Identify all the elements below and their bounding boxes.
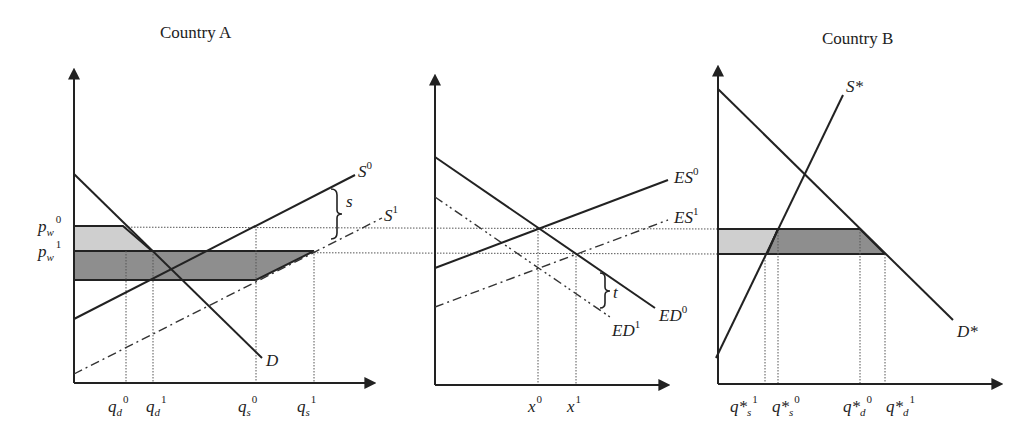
- subsidy-cost-area: [74, 251, 314, 280]
- label-ed1: ED1: [611, 318, 640, 340]
- excess-demand-ed0: [435, 157, 655, 308]
- label-qs0-star: q*s0: [772, 393, 800, 418]
- excess-demand-ed1: [435, 197, 610, 317]
- label-es1: ES1: [673, 205, 698, 227]
- label-d-star: D*: [956, 322, 978, 341]
- demand-curve-b: [718, 89, 953, 320]
- label-qd0: qd0: [108, 393, 129, 418]
- panel-country-b: Country B S* D* q*s1 q*s0 q*d0 q*d1: [716, 29, 1001, 418]
- panel-title-country-a: Country A: [160, 23, 232, 42]
- world-price-0-guide: [74, 227, 718, 229]
- label-x1: x1: [566, 393, 581, 416]
- label-qs0: qs0: [238, 393, 258, 418]
- label-qd1: qd1: [146, 393, 167, 418]
- label-s-star: S*: [846, 77, 864, 96]
- label-qd1-star: q*d1: [886, 393, 915, 418]
- supply-curve-b: [716, 95, 843, 358]
- label-pw0: pw0: [37, 213, 62, 238]
- trade-policy-diagram: Country A s S0 S1 D pw0 pw1 qd0 qd1 qs0 …: [0, 0, 1034, 439]
- panel-title-country-b: Country B: [822, 29, 893, 48]
- subsidy-brace: [331, 189, 342, 239]
- panel-country-a: Country A s S0 S1 D pw0 pw1 qd0 qd1 qs0 …: [37, 23, 398, 418]
- label-ed0: ED0: [658, 303, 688, 325]
- label-s0: S0: [358, 159, 373, 181]
- consumer-gain-area: [767, 229, 885, 254]
- tariff-brace: [600, 273, 610, 308]
- label-qs1-star: q*s1: [730, 393, 758, 418]
- label-x0: x0: [527, 393, 543, 416]
- label-s1: S1: [384, 203, 398, 225]
- label-pw1: pw1: [37, 238, 61, 263]
- subsidy-label: s: [346, 192, 353, 211]
- excess-supply-es0: [435, 180, 668, 268]
- label-qs1: qs1: [297, 393, 316, 418]
- label-es0: ES0: [673, 165, 699, 187]
- label-d: D: [265, 351, 279, 370]
- tariff-label: t: [613, 283, 619, 302]
- panel-world-market: t ES0 ES1 ED0 ED1 x0 x1: [435, 76, 699, 416]
- label-qd0-star: q*d0: [843, 393, 873, 418]
